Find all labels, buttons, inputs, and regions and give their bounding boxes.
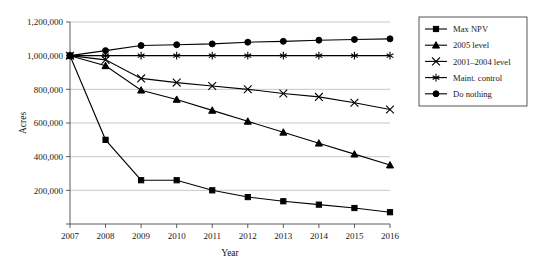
data-point-circle [433,91,439,97]
gridlines [70,22,390,190]
data-point-circle [387,36,393,42]
data-point-square [281,199,286,204]
chart-container: 200,000400,000600,000800,0001,000,0001,2… [0,0,533,268]
data-point-square [352,205,357,210]
data-point-circle [103,48,109,54]
data-point-square [316,202,321,207]
data-point-square [210,188,215,193]
line-chart: 200,000400,000600,000800,0001,000,0001,2… [0,0,533,268]
data-point-triangle [138,87,145,93]
series-maint-control [67,52,394,60]
y-tick-label: 1,200,000 [27,17,64,27]
data-point-square [387,210,392,215]
legend-label: Max NPV [453,24,489,34]
data-point-square [245,194,250,199]
data-point-square [174,178,179,183]
data-point-circle [280,38,286,44]
legend-label: 2005 level [453,40,490,50]
y-tick-label: 800,000 [34,85,64,95]
data-point-circle [138,43,144,49]
x-tick-label: 2015 [345,231,364,241]
data-point-square [433,26,438,31]
y-axis-tick-labels: 200,000400,000600,000800,0001,000,0001,2… [27,17,64,195]
legend-label: Maint. control [453,73,503,83]
x-tick-label: 2011 [203,231,221,241]
y-tick-label: 600,000 [34,118,64,128]
series-2001-2004-level [66,52,394,114]
x-tick-label: 2014 [310,231,329,241]
chart-legend: Max NPV2005 level2001–2004 levelMaint. c… [419,17,527,106]
y-axis-title: Acres [18,112,28,134]
x-tick-label: 2010 [168,231,187,241]
legend-label: Do nothing [453,89,493,99]
data-point-circle [245,39,251,45]
data-point-circle [174,42,180,48]
x-tick-label: 2008 [97,231,116,241]
data-point-circle [316,37,322,43]
x-axis-title: Year [221,248,239,258]
y-tick-label: 200,000 [34,186,64,196]
x-axis-ticks [70,224,390,228]
x-tick-label: 2009 [132,231,151,241]
data-point-square [103,137,108,142]
legend-label: 2001–2004 level [453,57,511,67]
data-point-circle [209,41,215,47]
x-tick-label: 2012 [239,231,257,241]
x-axis-tick-labels: 2007200820092010201120122013201420152016 [61,231,400,241]
data-point-circle [351,37,357,43]
data-point-square [139,178,144,183]
y-tick-label: 1,000,000 [27,51,64,61]
y-tick-label: 400,000 [34,152,64,162]
x-tick-label: 2007 [61,231,80,241]
x-tick-label: 2016 [381,231,400,241]
x-tick-label: 2013 [274,231,293,241]
data-point-circle [67,53,73,59]
data-series-group [66,36,394,215]
